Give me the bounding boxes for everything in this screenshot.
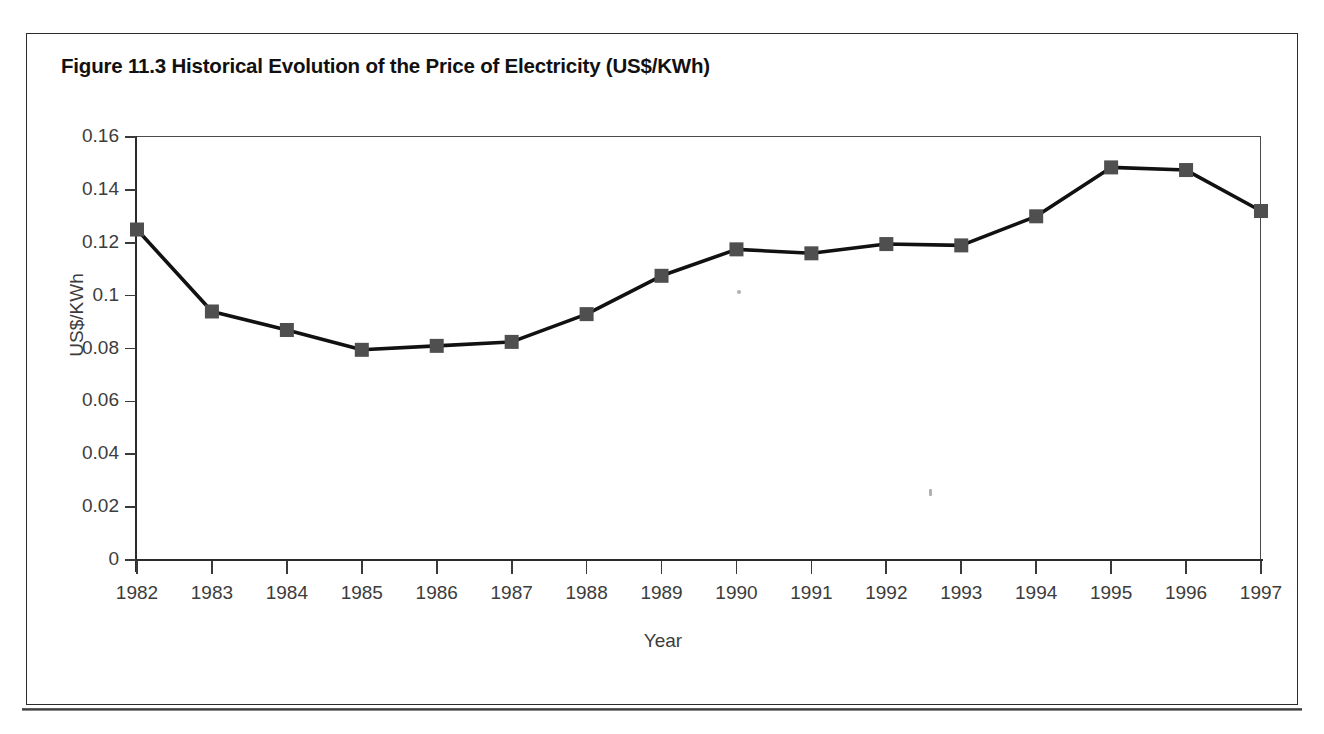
y-axis-tick-label: 0 — [27, 548, 119, 570]
y-axis-tick-label: 0.06 — [27, 389, 119, 411]
y-axis-tick — [125, 348, 136, 350]
y-axis-tick-label: 0.04 — [27, 442, 119, 464]
plot-area — [135, 136, 1261, 560]
x-axis-tick — [885, 561, 887, 574]
x-axis-tick-label: 1989 — [640, 582, 682, 604]
x-axis-tick — [960, 561, 962, 574]
x-axis-tick — [511, 561, 513, 574]
x-axis-tick-label: 1996 — [1165, 582, 1207, 604]
x-axis-tick-label: 1985 — [341, 582, 383, 604]
x-axis-tick — [1260, 561, 1262, 574]
x-axis-tick-label: 1982 — [116, 582, 158, 604]
y-axis-title: US$/KWh — [66, 245, 88, 385]
y-axis-tick — [125, 506, 136, 508]
y-axis-tick — [125, 242, 136, 244]
x-axis-tick — [211, 561, 213, 574]
x-axis-tick — [1035, 561, 1037, 574]
x-axis-line — [127, 559, 1263, 561]
x-axis-tick-label: 1994 — [1015, 582, 1057, 604]
x-axis-tick-label: 1988 — [565, 582, 607, 604]
x-axis-tick — [1185, 561, 1187, 574]
page-top-artifact — [300, 0, 1000, 22]
x-axis-tick-label: 1986 — [416, 582, 458, 604]
x-axis-tick-label: 1987 — [491, 582, 533, 604]
x-axis-tick — [1110, 561, 1112, 574]
x-axis-tick — [436, 561, 438, 574]
x-axis-title: Year — [27, 630, 1299, 652]
y-axis-tick — [125, 401, 136, 403]
x-axis-tick — [286, 561, 288, 574]
x-axis-tick — [136, 561, 138, 574]
x-axis-tick-label: 1992 — [865, 582, 907, 604]
figure-frame: Figure 11.3 Historical Evolution of the … — [26, 33, 1298, 705]
chart-area: 00.020.040.060.080.10.120.140.16 1982198… — [27, 34, 1299, 706]
x-axis-tick — [361, 561, 363, 574]
page-bottom-rule — [22, 708, 1302, 711]
page-speck-2 — [737, 290, 741, 294]
x-axis-tick — [661, 561, 663, 574]
y-axis-tick — [125, 189, 136, 191]
y-axis-tick — [125, 136, 136, 138]
x-axis-tick — [736, 561, 738, 574]
x-axis-tick-label: 1997 — [1240, 582, 1282, 604]
y-axis-tick — [125, 559, 136, 561]
y-axis-tick-label: 0.14 — [27, 178, 119, 200]
x-axis-tick-label: 1993 — [940, 582, 982, 604]
x-axis-tick — [586, 561, 588, 574]
x-axis-tick — [811, 561, 813, 574]
x-axis-tick-label: 1995 — [1090, 582, 1132, 604]
x-axis-tick-label: 1990 — [715, 582, 757, 604]
x-axis-tick-label: 1984 — [266, 582, 308, 604]
x-axis-tick-label: 1983 — [191, 582, 233, 604]
y-axis-tick — [125, 295, 136, 297]
y-axis-tick-label: 0.16 — [27, 125, 119, 147]
y-axis-tick — [125, 453, 136, 455]
y-axis-tick-label: 0.02 — [27, 495, 119, 517]
x-axis-tick-label: 1991 — [790, 582, 832, 604]
page-speck — [929, 489, 932, 496]
